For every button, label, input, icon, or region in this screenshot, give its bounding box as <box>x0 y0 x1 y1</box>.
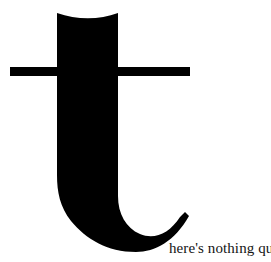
letter-t-glyph <box>0 0 271 262</box>
letter-t-crossbar <box>10 67 190 76</box>
tagline-text: here's nothing quite <box>169 240 271 257</box>
poster-canvas: here's nothing quite <box>0 0 271 262</box>
letter-t-stem-and-tail <box>57 13 189 252</box>
